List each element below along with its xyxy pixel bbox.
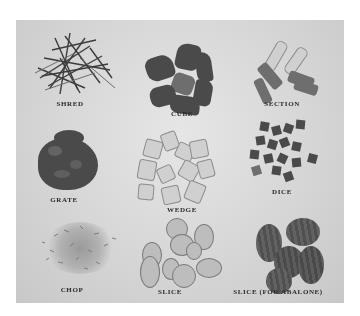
slice-pile [138,216,228,288]
label-slice: SLICE [158,288,182,296]
chop-flecks-graphic [34,216,124,278]
section-pile [254,34,324,104]
shred-pile [30,28,120,98]
label-wedge: WEDGE [167,206,197,214]
shred-strands-graphic [30,28,120,98]
label-grate: GRATE [50,196,77,204]
label-dice: DICE [272,188,292,196]
chop-pile [34,216,124,278]
label-cube: CUBE [171,110,193,118]
label-section: SECTION [264,100,300,108]
cube-pile [144,34,224,116]
abalone-slice-pile [252,216,332,294]
wedge-pile [136,130,216,208]
label-shred: SHRED [56,100,83,108]
grate-pile [34,128,100,192]
label-slice-for-abalone: SLICE (FOR ABALONE) [233,288,323,296]
label-chop: CHOP [61,286,84,294]
cutting-styles-photo: SHRED CUBE SECTION GRATE [16,20,344,303]
dice-pile [248,120,328,186]
